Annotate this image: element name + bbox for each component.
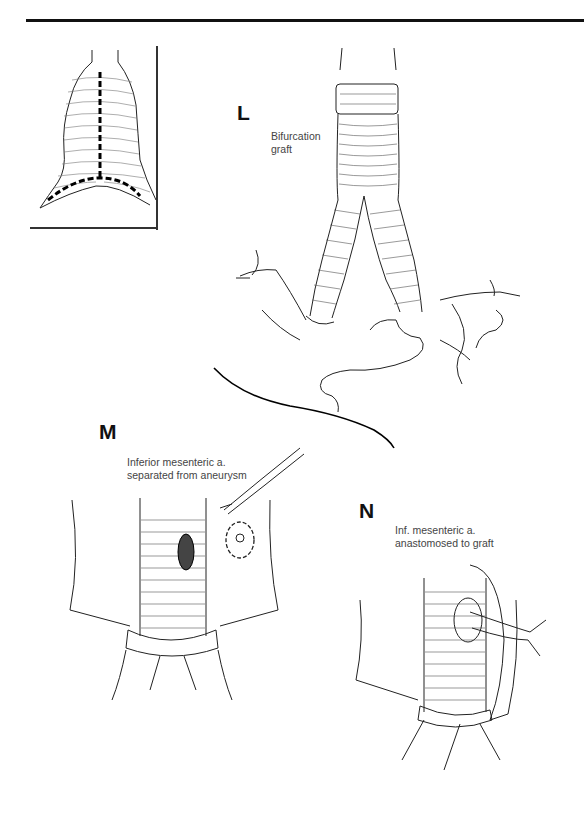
panel-m-drawing <box>70 448 304 700</box>
caption-line: graft <box>271 143 321 156</box>
panel-letter-n: N <box>359 499 374 523</box>
caption-line: anastomosed to graft <box>395 537 494 550</box>
panel-letter-l: L <box>237 101 250 125</box>
caption-line: Bifurcation <box>271 130 321 143</box>
caption-line: separated from aneurysm <box>127 469 247 482</box>
caption-bifurcation-graft: Bifurcation graft <box>271 130 321 156</box>
caption-line: Inferior mesenteric a. <box>127 456 247 469</box>
panel-n-drawing <box>356 565 546 770</box>
caption-inf-mesenteric-anastomosed: Inf. mesenteric a. anastomosed to graft <box>395 524 494 550</box>
panel-letter-m: M <box>99 420 117 444</box>
panel-l-drawing <box>236 48 520 412</box>
illustration-artwork <box>0 0 584 816</box>
inset-aneurysm-drawing <box>40 50 156 208</box>
separator-curve <box>214 368 394 448</box>
caption-line: Inf. mesenteric a. <box>395 524 494 537</box>
caption-inferior-mesenteric-separated: Inferior mesenteric a. separated from an… <box>127 456 247 482</box>
